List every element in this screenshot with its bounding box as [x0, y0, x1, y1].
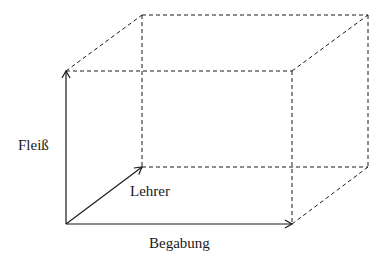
fleiss-axis-label: Fleiß — [18, 137, 49, 154]
cube-diagram — [0, 0, 387, 265]
dashed-box-edges — [66, 15, 368, 224]
lehrer-axis-label: Lehrer — [130, 183, 170, 200]
begabung-axis-label: Begabung — [149, 235, 210, 252]
